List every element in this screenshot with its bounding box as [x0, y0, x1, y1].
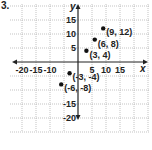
- point-label: (9, 12): [106, 27, 132, 37]
- x-tick-label: 10: [101, 65, 111, 75]
- point-label: (-6, -8): [64, 83, 91, 93]
- y-tick-label: 15: [66, 15, 76, 25]
- data-point: [101, 26, 105, 30]
- y-axis-label: y: [69, 1, 76, 12]
- y-tick-label: 5: [71, 43, 76, 53]
- data-point: [59, 82, 63, 86]
- data-point: [84, 49, 88, 53]
- point-label: (-3, -4): [73, 72, 100, 82]
- data-point: [67, 71, 71, 75]
- axes: [12, 4, 148, 120]
- problem-number: 3.: [1, 0, 10, 11]
- x-tick-label: 15: [115, 65, 125, 75]
- y-tick-label: -20: [63, 113, 76, 123]
- x-axis-label: x: [139, 63, 146, 74]
- y-tick-label: 10: [66, 29, 76, 39]
- x-tick-label: -15: [29, 65, 42, 75]
- point-label: (3, 4): [89, 50, 110, 60]
- x-tick-label: -10: [43, 65, 56, 75]
- x-tick-label: -20: [15, 65, 28, 75]
- point-label: (6, 8): [98, 39, 119, 49]
- coordinate-plane: -20-15-105101515105-15-20 (9, 12)(6, 8)(…: [0, 0, 152, 150]
- y-tick-label: -15: [63, 99, 76, 109]
- data-point: [93, 37, 97, 41]
